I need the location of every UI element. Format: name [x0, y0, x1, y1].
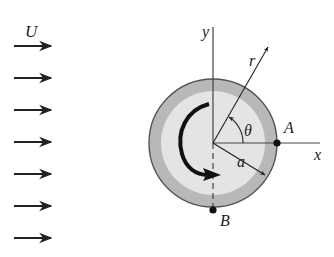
freestream-arrows — [14, 46, 51, 238]
theta-label: θ — [244, 122, 252, 139]
point-b-label: B — [220, 212, 230, 229]
radius-a-label: a — [237, 153, 245, 170]
point-a-label: A — [283, 119, 294, 136]
radial-r-label: r — [249, 52, 256, 69]
y-axis-label: y — [200, 23, 210, 41]
point-b-marker — [209, 206, 216, 213]
point-a-marker — [273, 139, 280, 146]
freestream-label: U — [25, 22, 39, 41]
rotating-cylinder-diagram: U y x r θ a A B — [0, 0, 334, 257]
x-axis-label: x — [313, 146, 321, 163]
